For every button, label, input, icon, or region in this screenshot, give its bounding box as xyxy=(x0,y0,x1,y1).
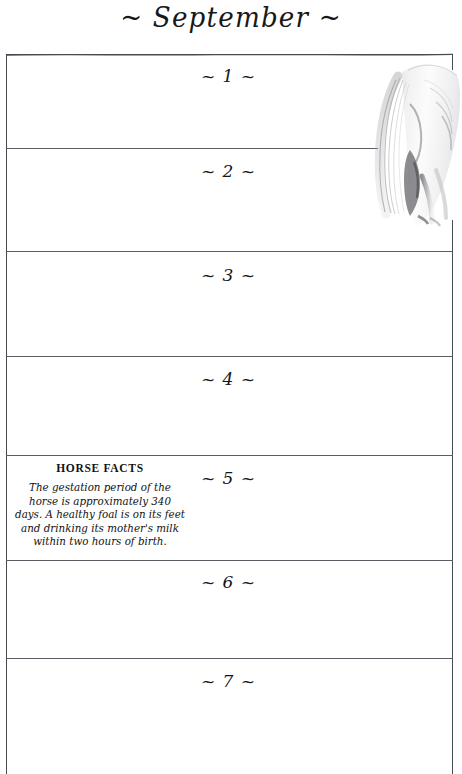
horse-facts-heading: HORSE FACTS xyxy=(14,462,186,474)
day-label-4: ~ 4 ~ xyxy=(6,369,453,389)
day-row[interactable]: ~ 3 ~ xyxy=(6,251,453,356)
day-label-3: ~ 3 ~ xyxy=(6,265,453,285)
day-label-6: ~ 6 ~ xyxy=(6,572,453,592)
day-row[interactable]: ~ 4 ~ xyxy=(6,356,453,455)
page-title: ~ September ~ xyxy=(7,2,455,33)
day-row[interactable]: ~ 7 ~ xyxy=(6,658,453,761)
day-row[interactable]: ~ 1 ~ xyxy=(6,54,453,148)
day-label-2: ~ 2 ~ xyxy=(6,161,453,181)
day-row[interactable]: ~ 6 ~ xyxy=(6,560,453,658)
horse-facts-body: The gestation period of the horse is app… xyxy=(14,481,186,549)
day-label-7: ~ 7 ~ xyxy=(6,671,453,691)
horse-facts-block: HORSE FACTS The gestation period of the … xyxy=(14,462,186,549)
day-label-1: ~ 1 ~ xyxy=(6,66,453,86)
day-row[interactable]: ~ 2 ~ xyxy=(6,148,453,251)
